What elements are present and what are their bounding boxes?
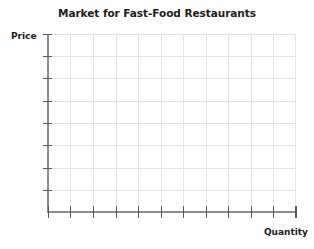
y-axis-label: Price bbox=[11, 31, 37, 41]
x-axis-label: Quantity bbox=[252, 227, 308, 237]
chart-figure: Market for Fast-Food Restaurants Price bbox=[0, 0, 314, 249]
chart-title: Market for Fast-Food Restaurants bbox=[0, 7, 314, 19]
plot-area bbox=[48, 34, 296, 212]
chart-gridlines bbox=[48, 34, 296, 212]
